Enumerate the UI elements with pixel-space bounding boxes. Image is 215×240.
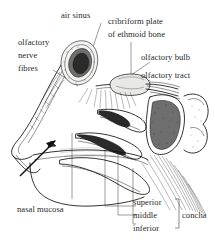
label-olfactory-nerve-fibres-line2: nerve (18, 50, 37, 60)
label-cribriform-plate-line1: cribriform plate (108, 16, 163, 26)
label-cribriform-plate-line2: of ethmoid bone (108, 29, 165, 39)
label-inferior-concha: inferior (133, 223, 159, 233)
label-superior-concha: superior (133, 197, 162, 207)
label-olfactory-tract: olfactory tract (141, 70, 191, 80)
label-olfactory-bulb: olfactory bulb (141, 52, 190, 62)
label-air-sinus: air sinus (61, 10, 91, 20)
label-olfactory-nerve-fibres-line3: fibres (18, 63, 38, 73)
nasal-cavity-diagram: air sinus olfactory nerve fibres cribrif… (0, 0, 215, 240)
anatomical-figure: air sinus olfactory nerve fibres cribrif… (0, 0, 215, 240)
label-nasal-mucosa: nasal mucosa (17, 204, 64, 214)
label-olfactory-nerve-fibres-line1: olfactory (18, 37, 50, 47)
label-middle-concha: middle (133, 210, 157, 220)
label-concha-group: concha (182, 210, 207, 220)
